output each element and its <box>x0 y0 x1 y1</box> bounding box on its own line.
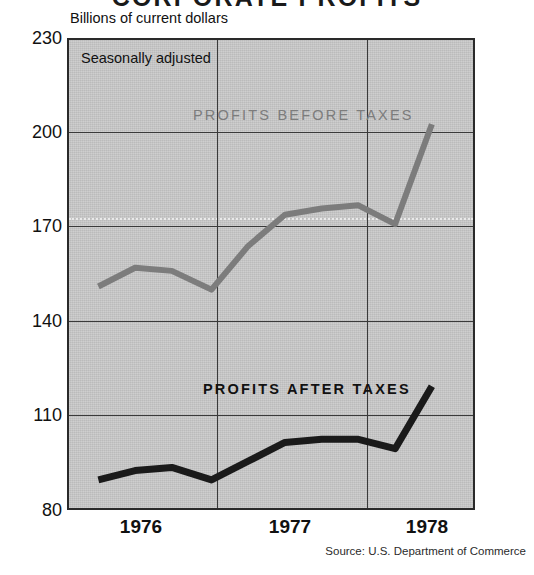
plot-area: Seasonally adjusted PROFITS BEFORE TAXES… <box>67 38 475 510</box>
chart-root: CORPORATE PROFITS Billions of current do… <box>0 0 534 575</box>
y-tick-200: 200 <box>0 122 62 143</box>
y-tick-80: 80 <box>0 500 62 521</box>
source-note: Source: U.S. Department of Commerce <box>325 545 526 557</box>
x-tick-1977: 1977 <box>269 516 311 538</box>
x-tick-1976: 1976 <box>120 516 162 538</box>
series-lines <box>69 40 473 508</box>
y-tick-230: 230 <box>0 28 62 49</box>
line-before-taxes <box>98 124 431 289</box>
line-after-taxes <box>98 386 431 480</box>
y-tick-110: 110 <box>0 405 62 426</box>
x-tick-1978: 1978 <box>406 516 448 538</box>
y-tick-140: 140 <box>0 311 62 332</box>
y-tick-170: 170 <box>0 216 62 237</box>
y-axis-caption: Billions of current dollars <box>70 10 228 26</box>
y-axis-tick-labels: 230 200 170 140 110 80 <box>0 0 62 575</box>
